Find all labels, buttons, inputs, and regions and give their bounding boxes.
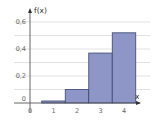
bar-x2: [65, 90, 89, 104]
x-axis-arrow-icon: [136, 101, 141, 105]
bars: [42, 33, 136, 103]
histogram-chart: f(x) x 00,20,40,6 01234: [0, 0, 153, 122]
y-tick-labels: 00,20,40,6: [16, 18, 26, 103]
x-tick-label: 1: [51, 107, 55, 115]
x-tick-label: 2: [75, 107, 79, 115]
x-tick-label: 0: [28, 107, 32, 115]
y-axis-arrow-icon: [28, 8, 32, 13]
y-axis-label: f(x): [34, 6, 47, 15]
y-tick-label: 0,2: [16, 72, 26, 80]
x-axis-label: x: [135, 92, 140, 101]
y-tick-label: 0,6: [16, 18, 26, 26]
bar-x4: [112, 33, 136, 103]
y-tick-label: 0,4: [16, 45, 26, 53]
x-tick-labels: 01234: [28, 107, 126, 115]
bar-x3: [89, 53, 113, 103]
y-tick-label: 0: [22, 95, 26, 103]
x-tick-label: 4: [122, 107, 126, 115]
x-tick-label: 3: [98, 107, 102, 115]
